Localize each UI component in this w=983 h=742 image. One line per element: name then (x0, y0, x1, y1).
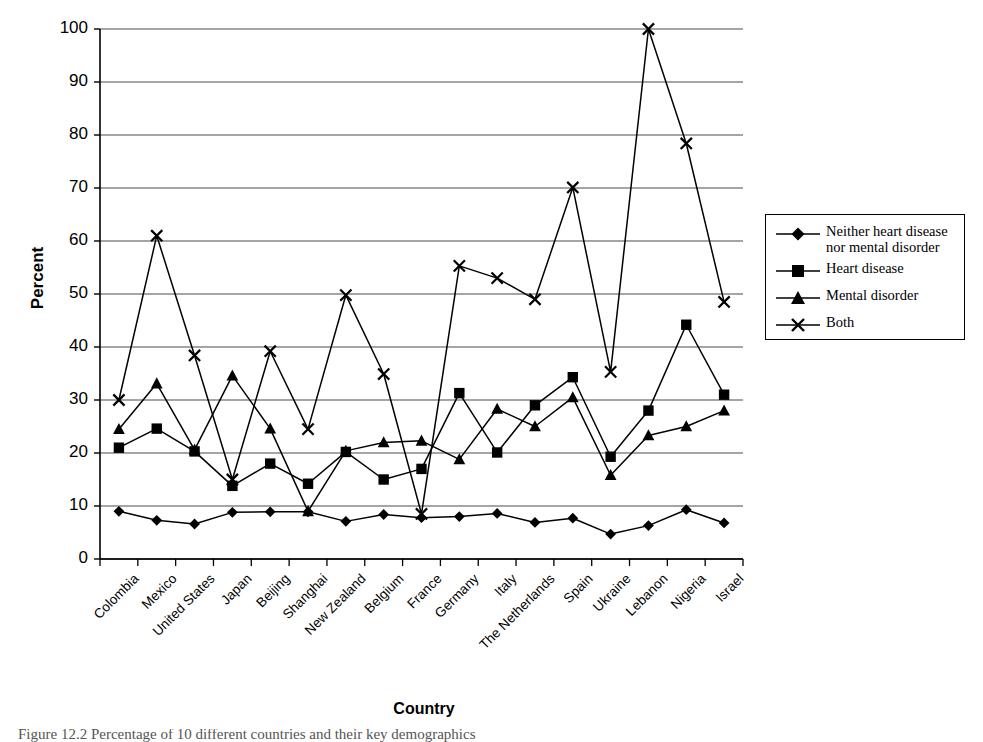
data-point (680, 420, 692, 431)
data-point (378, 474, 388, 484)
data-point (378, 509, 389, 520)
data-point (416, 435, 428, 446)
triangle-marker-icon (774, 287, 822, 309)
data-point (719, 518, 730, 529)
legend-item-both[interactable]: Both (766, 314, 964, 336)
data-point (227, 507, 238, 518)
data-point (340, 289, 351, 300)
data-point (265, 458, 275, 468)
legend-label-heart-disease: Heart disease (826, 260, 904, 276)
chart-figure: Percent Country 0102030405060708090100 C… (0, 0, 983, 742)
data-point (454, 511, 465, 522)
legend-item-neither[interactable]: Neither heart disease nor mental disorde… (766, 223, 964, 245)
data-point (114, 506, 125, 517)
data-point (530, 400, 540, 410)
data-point (151, 377, 163, 388)
data-point (529, 294, 540, 305)
data-point (152, 423, 162, 433)
data-point (605, 529, 616, 540)
data-point (492, 508, 503, 519)
data-point (718, 296, 729, 307)
legend-label-mental-disorder: Mental disorder (826, 287, 918, 303)
cross-marker-icon (774, 314, 822, 336)
data-point (530, 517, 541, 528)
square-marker-icon (774, 260, 822, 282)
data-point (454, 388, 464, 398)
data-point (303, 479, 313, 489)
data-point (114, 443, 124, 453)
data-point (378, 368, 389, 379)
legend-label-both: Both (826, 314, 854, 330)
data-point (567, 513, 578, 524)
legend-label-neither: Neither heart disease nor mental disorde… (826, 223, 948, 255)
data-point (643, 520, 654, 531)
data-point (340, 516, 351, 527)
data-point (568, 372, 578, 382)
data-point (226, 369, 238, 380)
series-square (114, 320, 730, 492)
data-point (529, 420, 541, 431)
data-point (681, 320, 691, 330)
plot-canvas (0, 0, 983, 742)
data-point (151, 515, 162, 526)
data-point (718, 404, 730, 415)
chart-legend: Neither heart disease nor mental disorde… (765, 214, 965, 340)
data-point (567, 391, 579, 402)
data-point (416, 464, 426, 474)
legend-item-heart-disease[interactable]: Heart disease (766, 260, 964, 282)
data-point (643, 405, 653, 415)
diamond-marker-icon (774, 223, 822, 245)
data-point (491, 403, 503, 414)
data-point (605, 452, 615, 462)
data-point (265, 506, 276, 517)
data-point (492, 447, 502, 457)
data-point (681, 138, 692, 149)
data-point (189, 350, 200, 361)
legend-item-mental-disorder[interactable]: Mental disorder (766, 287, 964, 309)
data-point (719, 390, 729, 400)
figure-caption: Figure 12.2 Percentage of 10 different c… (0, 729, 983, 742)
data-point (492, 273, 503, 284)
data-point (189, 519, 200, 530)
data-point (151, 230, 162, 241)
data-point (302, 424, 313, 435)
